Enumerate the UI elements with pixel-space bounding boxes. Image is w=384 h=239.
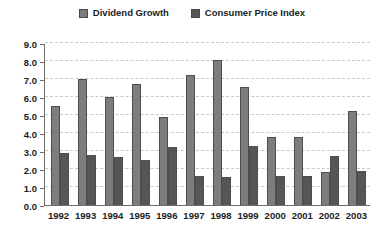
x-tick-label: 1992	[45, 209, 72, 225]
y-tick: 7.0	[24, 75, 44, 86]
bar-2000-series-1	[267, 137, 276, 205]
y-tick-label: 6.0	[24, 93, 40, 104]
bar-group	[289, 44, 316, 205]
y-tick: 8.0	[24, 57, 44, 68]
bar-group	[127, 44, 154, 205]
bar-group	[154, 44, 181, 205]
x-tick-label: 2000	[262, 209, 289, 225]
bar-2002-series-2	[330, 156, 339, 206]
bar-group	[181, 44, 208, 205]
y-tick: 3.0	[24, 147, 44, 158]
legend-entry-dividend-growth: Dividend Growth	[79, 8, 169, 18]
bar-group	[235, 44, 262, 205]
bar-1998-series-2	[222, 177, 231, 205]
y-tick: 4.0	[24, 129, 44, 140]
y-tick-label: 3.0	[24, 147, 40, 158]
y-tick: 2.0	[24, 165, 44, 176]
bar-group	[73, 44, 100, 205]
bar-2000-series-2	[276, 176, 285, 205]
bar-2001-series-2	[303, 176, 312, 205]
bar-1992-series-2	[60, 153, 69, 205]
bar-1994-series-1	[105, 97, 114, 205]
bar-1992-series-1	[51, 106, 60, 205]
bar-1995-series-1	[132, 84, 141, 205]
bar-1997-series-1	[186, 75, 195, 205]
bar-1993-series-2	[87, 155, 96, 205]
bar-groups	[46, 44, 370, 205]
bar-2003-series-2	[357, 171, 366, 205]
chart-legend: Dividend Growth Consumer Price Index	[0, 4, 384, 22]
bar-1998-series-1	[213, 60, 222, 205]
bar-group	[343, 44, 370, 205]
gridline	[45, 42, 370, 43]
legend-label-dividend-growth: Dividend Growth	[93, 8, 169, 18]
bar-group	[208, 44, 235, 205]
bar-1994-series-2	[114, 157, 123, 205]
y-tick-mark	[40, 206, 44, 207]
y-tick: 6.0	[24, 93, 44, 104]
legend-swatch-icon-consumer-price-index	[191, 9, 200, 18]
chart-screenshot: Dividend Growth Consumer Price Index 9.0…	[0, 0, 384, 239]
y-axis: 9.08.07.06.05.04.03.02.01.00.0	[0, 44, 44, 207]
y-tick-label: 4.0	[24, 129, 40, 140]
bar-2002-series-1	[321, 172, 330, 205]
x-tick-label: 1995	[126, 209, 153, 225]
plot-area	[44, 44, 370, 206]
y-tick-label: 2.0	[24, 165, 40, 176]
y-tick: 5.0	[24, 111, 44, 122]
bar-group	[46, 44, 73, 205]
y-tick-label: 5.0	[24, 111, 40, 122]
x-tick-label: 2001	[289, 209, 316, 225]
y-tick: 9.0	[24, 39, 44, 50]
bar-group	[262, 44, 289, 205]
bar-1999-series-2	[249, 146, 258, 205]
y-tick-label: 9.0	[24, 39, 40, 50]
x-tick-label: 1999	[235, 209, 262, 225]
bar-group	[316, 44, 343, 205]
y-tick: 1.0	[24, 183, 44, 194]
bar-1996-series-1	[159, 117, 168, 205]
legend-swatch-icon-dividend-growth	[79, 9, 88, 18]
x-axis: 1992199319941995199619971998199920002001…	[45, 209, 370, 225]
x-tick-label: 1998	[207, 209, 234, 225]
bar-group	[100, 44, 127, 205]
bar-1999-series-1	[240, 87, 249, 205]
y-tick-label: 1.0	[24, 183, 40, 194]
y-tick-label: 0.0	[24, 201, 40, 212]
x-tick-label: 2003	[343, 209, 370, 225]
x-tick-label: 1993	[72, 209, 99, 225]
x-tick-label: 1997	[180, 209, 207, 225]
bar-1995-series-2	[141, 160, 150, 205]
y-tick: 0.0	[24, 201, 44, 212]
bar-2001-series-1	[294, 137, 303, 205]
bar-1993-series-1	[78, 79, 87, 205]
x-tick-label: 1996	[153, 209, 180, 225]
bar-1996-series-2	[168, 147, 177, 206]
y-tick-label: 8.0	[24, 57, 40, 68]
x-tick-label: 2002	[316, 209, 343, 225]
y-tick-label: 7.0	[24, 75, 40, 86]
x-tick-label: 1994	[99, 209, 126, 225]
bar-2003-series-1	[348, 111, 357, 205]
bar-1997-series-2	[195, 176, 204, 205]
legend-label-consumer-price-index: Consumer Price Index	[205, 8, 305, 18]
legend-entry-consumer-price-index: Consumer Price Index	[191, 8, 305, 18]
